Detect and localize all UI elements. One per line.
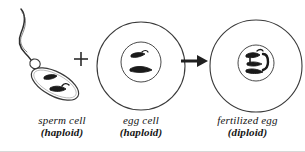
plus-operator-icon (74, 52, 88, 66)
egg-cell (97, 22, 185, 110)
caption-egg-ploidy: (haploid) (100, 126, 182, 138)
caption-fertilized-egg: fertilized egg (diploid) (190, 114, 305, 139)
diagram-stage: sperm cell (haploid) egg cell (haploid) … (0, 0, 305, 152)
egg-cell-nucleus (121, 42, 161, 82)
sperm-tail-icon (19, 9, 34, 66)
caption-egg-cell: egg cell (haploid) (100, 114, 182, 139)
diagram-root: sperm cell (haploid) egg cell (haploid) … (0, 0, 305, 152)
caption-fertilized-ploidy: (diploid) (190, 126, 305, 138)
sperm-midpiece-icon (30, 59, 40, 69)
fertilized-egg-cell (210, 20, 302, 112)
caption-fertilized-name: fertilized egg (190, 114, 305, 126)
caption-egg-name: egg cell (100, 114, 182, 126)
bottom-divider (0, 151, 305, 152)
sperm-cell (19, 9, 83, 107)
